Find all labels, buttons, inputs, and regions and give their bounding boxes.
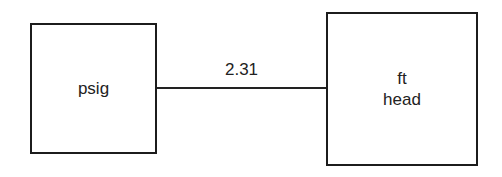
ft-head-box: ft head	[326, 12, 478, 166]
ft-label: ft	[397, 68, 406, 89]
psig-box: psig	[30, 23, 157, 154]
conversion-factor-label: 2.31	[157, 60, 326, 80]
conversion-connector-line	[157, 87, 326, 89]
head-label: head	[383, 89, 421, 110]
psig-label: psig	[78, 78, 109, 99]
